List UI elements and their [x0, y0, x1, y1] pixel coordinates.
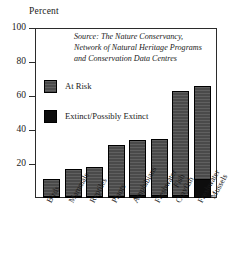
source-annotation: Source: The Nature Conservancy, Network …	[74, 31, 214, 64]
y-tick-label-80: 80	[0, 57, 26, 67]
legend-label-at-risk: At Risk	[65, 81, 92, 92]
source-line-2: Network of Natural Heritage Programs	[74, 42, 214, 53]
legend-label-extinct: Extinct/Possibly Extinct	[65, 111, 148, 122]
y-tick-label-60: 60	[0, 91, 26, 101]
legend-swatch-at-risk	[44, 80, 57, 93]
source-line-3: and Conservation Data Centres	[74, 53, 214, 64]
y-tick-label-40: 40	[0, 125, 26, 135]
x-axis-labels: BirdsMammalsReptilesPlantsAmphibiansFres…	[35, 200, 217, 273]
y-tick-label-100: 100	[0, 23, 26, 33]
legend-swatch-extinct	[44, 110, 57, 123]
y-tick-label-20: 20	[0, 159, 26, 169]
chart-container: Percent 10080604020 Source: The Nature C…	[0, 0, 236, 273]
y-axis-title: Percent	[29, 6, 59, 16]
source-line-1: Source: The Nature Conservancy,	[74, 31, 214, 42]
